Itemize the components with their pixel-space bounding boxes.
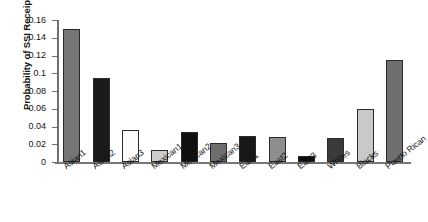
y-tick-label: 0.1 (0, 69, 46, 78)
x-axis-labels: Asian1Asian2Asian3Mexican1Mexican2Mexica… (57, 164, 423, 222)
y-tick-mark (52, 109, 57, 110)
y-tick-label: 0.08 (0, 87, 46, 96)
y-tick-label: 0.06 (0, 104, 46, 113)
y-tick-mark (52, 56, 57, 57)
y-tick-label: 0.12 (0, 51, 46, 60)
y-tick-mark (52, 127, 57, 128)
y-tick-mark (52, 91, 57, 92)
y-tick-label: 0.14 (0, 33, 46, 42)
y-tick-label: 0.16 (0, 16, 46, 25)
y-tick-label: 0 (0, 158, 46, 167)
bar (386, 60, 403, 162)
y-tick-label: 0.04 (0, 122, 46, 131)
plot-area: 00.020.040.060.080.10.120.140.16 (57, 20, 409, 162)
bar (63, 29, 80, 162)
y-tick-mark (52, 73, 57, 74)
y-tick-mark (52, 144, 57, 145)
y-tick-mark (52, 162, 57, 163)
y-axis-line (57, 20, 59, 162)
y-tick-mark (52, 20, 57, 21)
y-tick-mark (52, 38, 57, 39)
y-tick-label: 0.02 (0, 140, 46, 149)
